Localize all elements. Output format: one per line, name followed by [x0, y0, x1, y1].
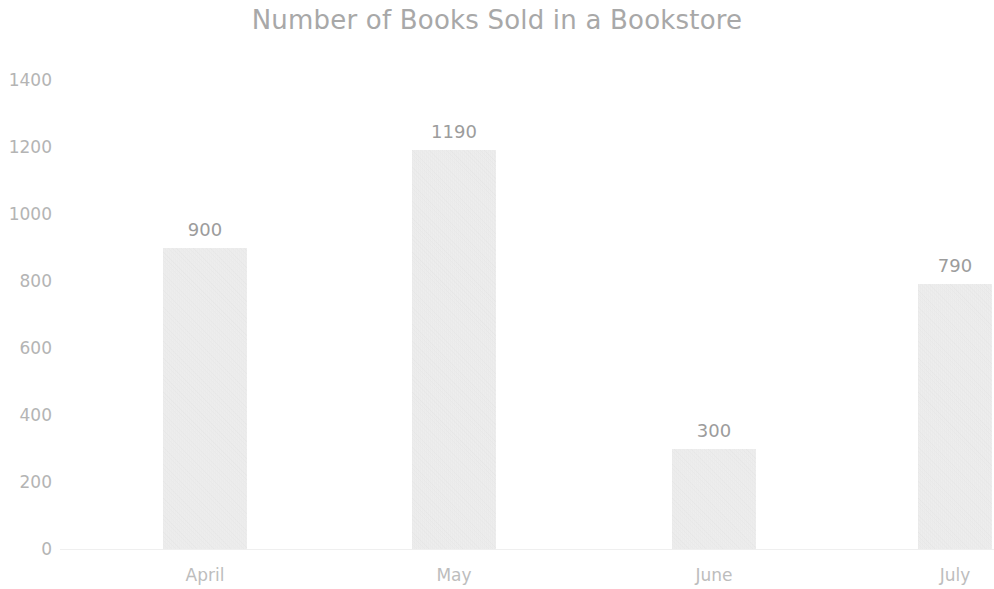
y-axis-tick-label: 0 [0, 539, 52, 559]
x-axis-line [60, 549, 994, 550]
bar-group: 300 [672, 80, 756, 549]
x-axis-category-label: July [845, 564, 994, 586]
bar-may[interactable] [412, 150, 496, 549]
bar-july[interactable] [918, 284, 992, 549]
bar-group: 900 [163, 80, 247, 549]
chart-title: Number of Books Sold in a Bookstore [0, 2, 994, 38]
bar-value-label: 900 [105, 219, 305, 241]
bar-chart: Number of Books Sold in a Bookstore 0200… [0, 0, 994, 589]
y-axis: 0200400600800100012001400 [0, 0, 52, 589]
y-axis-tick-label: 200 [0, 472, 52, 492]
bar-group: 1190 [412, 80, 496, 549]
y-axis-tick-label: 800 [0, 271, 52, 291]
bar-value-label: 790 [855, 255, 994, 277]
bar-group: 790 [918, 80, 992, 549]
y-axis-tick-label: 1000 [0, 204, 52, 224]
x-axis-category-label: May [344, 564, 564, 586]
bar-value-label: 300 [614, 420, 814, 442]
y-axis-tick-label: 1400 [0, 70, 52, 90]
bar-value-label: 1190 [354, 121, 554, 143]
y-axis-tick-label: 1200 [0, 137, 52, 157]
bar-april[interactable] [163, 248, 247, 550]
x-axis-category-label: April [95, 564, 315, 586]
bar-june[interactable] [672, 449, 756, 550]
x-axis: AprilMayJuneJuly [0, 564, 994, 589]
plot-area: 9001190300790 [60, 80, 994, 549]
y-axis-tick-label: 400 [0, 405, 52, 425]
x-axis-category-label: June [604, 564, 824, 586]
y-axis-tick-label: 600 [0, 338, 52, 358]
